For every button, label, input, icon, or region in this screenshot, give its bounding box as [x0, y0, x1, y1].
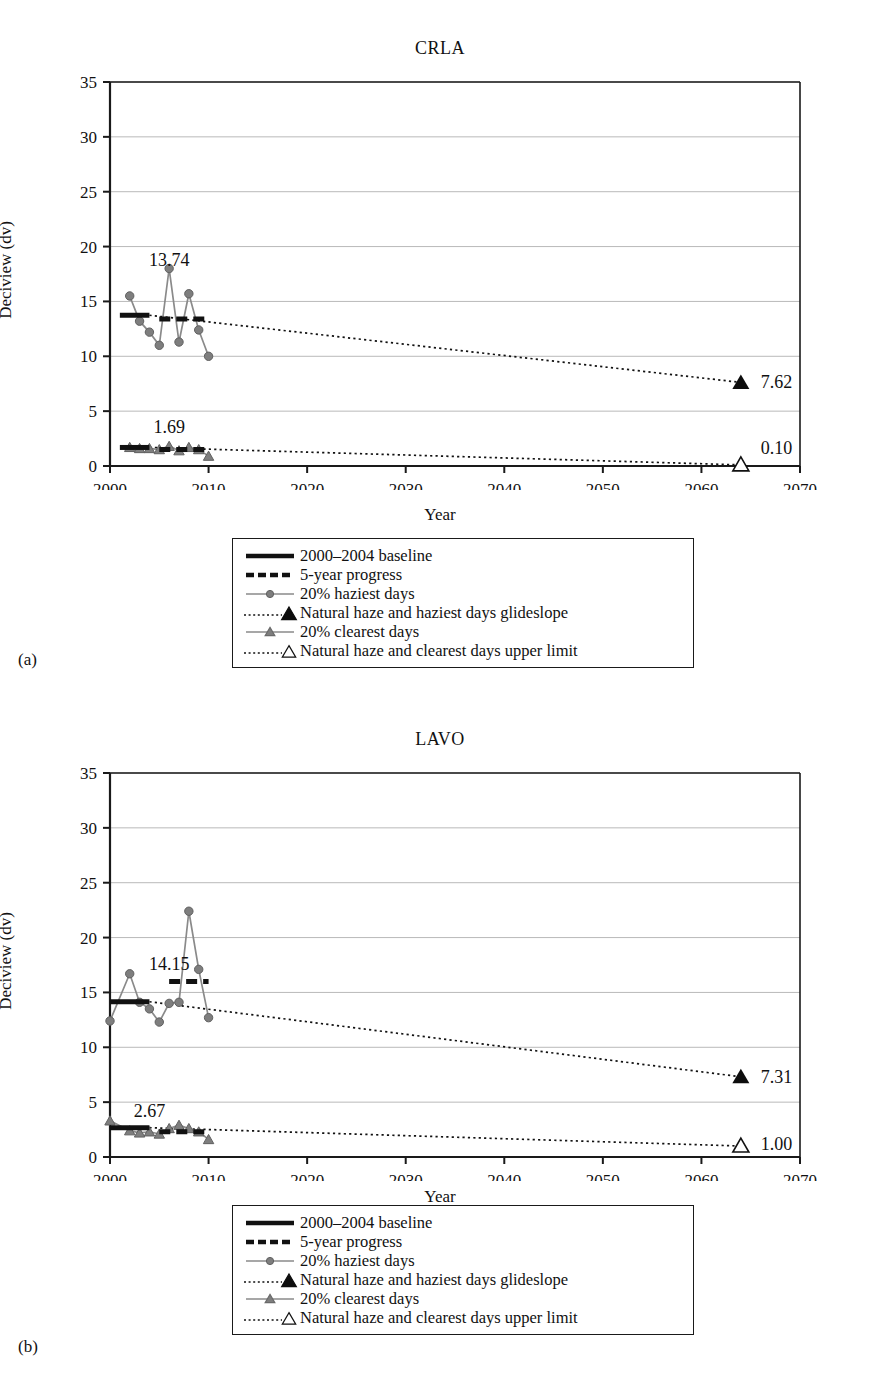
svg-text:25: 25: [80, 183, 97, 202]
chart-svg-b: 0510152025303520002010202020302040205020…: [0, 761, 880, 1181]
svg-text:5: 5: [89, 402, 98, 421]
x-axis-label-a: Year: [0, 505, 880, 525]
svg-text:5: 5: [89, 1093, 98, 1112]
legend-label: 2000–2004 baseline: [300, 546, 432, 565]
svg-text:25: 25: [80, 874, 97, 893]
solid-thick-black-line-icon: [242, 1213, 300, 1232]
svg-text:35: 35: [80, 764, 97, 783]
gray-line-circle-marker-icon: [242, 584, 300, 603]
svg-text:0: 0: [89, 1148, 98, 1167]
svg-text:2000: 2000: [93, 1171, 127, 1181]
legend-item-haziest: 20% haziest days: [242, 1251, 693, 1270]
y-axis-label-a: Deciview (dv): [0, 170, 16, 370]
legend-item-clearest-limit: Natural haze and clearest days upper lim…: [242, 641, 693, 660]
legend-label: 5-year progress: [300, 565, 402, 584]
legend-item-haziest: 20% haziest days: [242, 584, 693, 603]
figure-panel-a: CRLA Deciview (dv) 051015202530352000201…: [0, 0, 880, 691]
gray-line-triangle-marker-icon: [242, 1289, 300, 1308]
svg-text:14.15: 14.15: [149, 954, 190, 974]
svg-text:2030: 2030: [389, 480, 423, 490]
svg-text:30: 30: [80, 819, 97, 838]
legend-item-baseline: 2000–2004 baseline: [242, 1213, 693, 1232]
svg-text:1.69: 1.69: [153, 417, 185, 437]
legend-b: 2000–2004 baseline 5-year progress 20% h…: [232, 1205, 694, 1335]
svg-text:2020: 2020: [290, 480, 324, 490]
chart-title-b: LAVO: [0, 729, 880, 750]
svg-text:2030: 2030: [389, 1171, 423, 1181]
legend-item-baseline: 2000–2004 baseline: [242, 546, 693, 565]
gray-line-circle-marker-icon: [242, 1251, 300, 1270]
svg-text:2020: 2020: [290, 1171, 324, 1181]
legend-label: 20% haziest days: [300, 584, 415, 603]
legend-label: 2000–2004 baseline: [300, 1213, 432, 1232]
svg-text:2050: 2050: [586, 1171, 620, 1181]
chart-svg-a: 0510152025303520002010202020302040205020…: [0, 70, 880, 490]
svg-text:2070: 2070: [783, 480, 817, 490]
svg-text:10: 10: [80, 1038, 97, 1057]
legend-list-a: 2000–2004 baseline 5-year progress 20% h…: [233, 539, 693, 666]
dotted-line-filled-triangle-icon: [242, 603, 300, 622]
panel-label-b: (b): [18, 1337, 38, 1357]
legend-label: 20% haziest days: [300, 1251, 415, 1270]
svg-text:2060: 2060: [684, 1171, 718, 1181]
legend-label: 5-year progress: [300, 1232, 402, 1251]
legend-label: 20% clearest days: [300, 622, 419, 641]
dashed-thick-black-line-icon: [242, 565, 300, 584]
svg-text:13.74: 13.74: [149, 250, 190, 270]
gray-line-triangle-marker-icon: [242, 622, 300, 641]
plot-area-b: Deciview (dv) 05101520253035200020102020…: [0, 761, 880, 1181]
svg-text:2060: 2060: [684, 480, 718, 490]
svg-text:2010: 2010: [192, 480, 226, 490]
legend-label: Natural haze and haziest days glideslope: [300, 603, 568, 622]
svg-text:10: 10: [80, 347, 97, 366]
legend-list-b: 2000–2004 baseline 5-year progress 20% h…: [233, 1206, 693, 1333]
legend-a: 2000–2004 baseline 5-year progress 20% h…: [232, 538, 694, 668]
legend-item-clearest: 20% clearest days: [242, 622, 693, 641]
svg-text:7.31: 7.31: [761, 1067, 793, 1087]
svg-text:2040: 2040: [487, 480, 521, 490]
svg-text:2000: 2000: [93, 480, 127, 490]
svg-text:35: 35: [80, 73, 97, 92]
svg-text:20: 20: [80, 238, 97, 257]
y-axis-label-b: Deciview (dv): [0, 861, 16, 1061]
solid-thick-black-line-icon: [242, 546, 300, 565]
legend-label: 20% clearest days: [300, 1289, 419, 1308]
legend-label: Natural haze and clearest days upper lim…: [300, 1308, 578, 1327]
plot-area-a: Deciview (dv) 05101520253035200020102020…: [0, 70, 880, 490]
svg-text:2050: 2050: [586, 480, 620, 490]
legend-item-progress: 5-year progress: [242, 1232, 693, 1251]
figure-panel-b: LAVO Deciview (dv) 051015202530352000201…: [0, 691, 880, 1382]
svg-text:30: 30: [80, 128, 97, 147]
legend-item-clearest: 20% clearest days: [242, 1289, 693, 1308]
dotted-line-filled-triangle-icon: [242, 1270, 300, 1289]
dotted-line-open-triangle-icon: [242, 641, 300, 660]
svg-text:20: 20: [80, 929, 97, 948]
svg-text:2070: 2070: [783, 1171, 817, 1181]
legend-item-haziest-glideslope: Natural haze and haziest days glideslope: [242, 1270, 693, 1289]
dotted-line-open-triangle-icon: [242, 1308, 300, 1327]
legend-item-haziest-glideslope: Natural haze and haziest days glideslope: [242, 603, 693, 622]
svg-text:15: 15: [80, 292, 97, 311]
panel-label-a: (a): [18, 650, 37, 670]
chart-title-a: CRLA: [0, 38, 880, 59]
svg-text:1.00: 1.00: [761, 1134, 793, 1154]
dashed-thick-black-line-icon: [242, 1232, 300, 1251]
svg-text:0: 0: [89, 457, 98, 476]
svg-text:2010: 2010: [192, 1171, 226, 1181]
svg-text:2.67: 2.67: [134, 1101, 166, 1121]
legend-item-clearest-limit: Natural haze and clearest days upper lim…: [242, 1308, 693, 1327]
x-axis-label-b: Year: [0, 1187, 880, 1207]
svg-text:2040: 2040: [487, 1171, 521, 1181]
legend-label: Natural haze and clearest days upper lim…: [300, 641, 578, 660]
svg-text:7.62: 7.62: [761, 372, 793, 392]
legend-item-progress: 5-year progress: [242, 565, 693, 584]
legend-label: Natural haze and haziest days glideslope: [300, 1270, 568, 1289]
svg-text:15: 15: [80, 983, 97, 1002]
svg-text:0.10: 0.10: [761, 438, 793, 458]
